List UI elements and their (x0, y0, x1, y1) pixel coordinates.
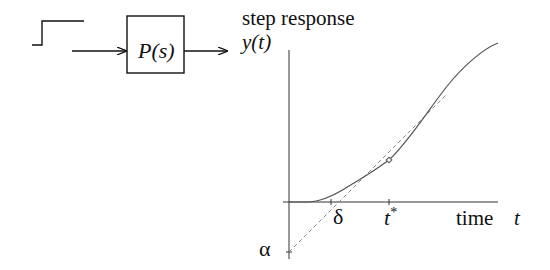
plot-title: step response (242, 8, 355, 29)
tstar-label: t* (384, 206, 397, 229)
x-axis-label-word: time (456, 208, 493, 229)
block-label: P(s) (138, 40, 175, 62)
x-axis-label-symbol: t (514, 208, 520, 229)
delta-label: δ (333, 206, 343, 228)
step-input-icon (32, 21, 84, 45)
alpha-label: α (259, 238, 271, 260)
tstar-superscript: * (390, 205, 397, 220)
y-axis-label: y(t) (242, 32, 271, 53)
step-response-curve (289, 43, 498, 202)
